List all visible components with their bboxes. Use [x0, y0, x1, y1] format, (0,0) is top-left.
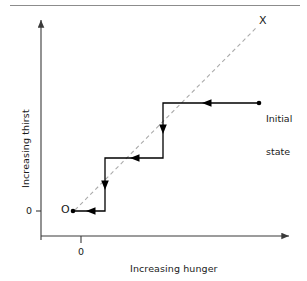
figure-panel: Increasing thirst Increasing hunger 0 0 …	[0, 0, 307, 281]
arrow-left-top	[202, 99, 212, 107]
origin-point	[71, 209, 76, 214]
y-axis-title: Increasing thirst	[20, 109, 31, 188]
arrow-left-bottom	[86, 207, 96, 215]
initial-state-label-line1: Initial	[266, 113, 292, 124]
arrow-down-lower	[101, 181, 109, 191]
initial-state-label: Initial state	[266, 91, 292, 179]
x-axis-title: Increasing hunger	[130, 263, 218, 274]
plot-canvas	[0, 0, 307, 281]
arrow-down-upper	[159, 125, 167, 135]
step-path	[73, 103, 259, 211]
arrow-left-middle	[130, 154, 140, 162]
x-axis-tick-label-zero: 0	[78, 246, 84, 257]
y-axis-tick-label-zero: 0	[26, 205, 32, 216]
terminal-point-label: X	[259, 15, 267, 26]
initial-state-label-line2: state	[266, 146, 292, 157]
initial-state-point	[257, 101, 262, 106]
origin-point-label: O	[61, 204, 70, 215]
